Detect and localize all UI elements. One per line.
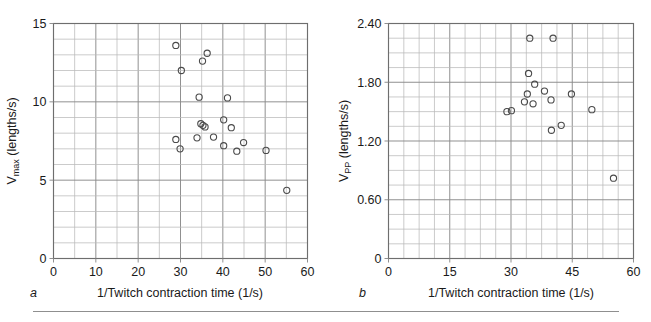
data-point	[548, 127, 554, 133]
data-point	[548, 97, 554, 103]
figure-container: 0102030405060 051015 1/Twitch contractio…	[0, 0, 651, 322]
y-tick-label: 15	[33, 17, 47, 31]
y-tick-label: 0	[375, 252, 382, 266]
x-tick-label: 60	[301, 265, 315, 279]
data-point	[530, 101, 536, 107]
panel-b-x-tick-labels: 015304560	[385, 259, 640, 279]
y-tick-label: 2.40	[357, 17, 381, 31]
data-point	[210, 134, 216, 140]
panel-b-y-tick-labels: 00.601.201.802.40	[357, 17, 388, 266]
panel-a-y-axis-title: Vmax (lengths/s)	[5, 97, 21, 184]
data-point	[541, 88, 547, 94]
panel-a-y-axis-tail: (lengths/s)	[5, 97, 19, 159]
panel-a: 0102030405060 051015 1/Twitch contractio…	[0, 0, 325, 322]
y-tick-label: 0.60	[357, 193, 381, 207]
panel-b-gridlines	[389, 24, 634, 259]
data-point	[568, 91, 574, 97]
data-point	[173, 136, 179, 142]
data-point	[228, 125, 234, 131]
data-point	[221, 143, 227, 149]
x-tick-label: 30	[504, 265, 518, 279]
x-tick-label: 30	[174, 265, 188, 279]
x-tick-label: 40	[216, 265, 230, 279]
bottom-divider-rule	[33, 311, 619, 312]
x-tick-label: 0	[50, 265, 57, 279]
data-point	[173, 42, 179, 48]
panel-a-x-tick-labels: 0102030405060	[50, 259, 314, 279]
panel-a-letter: a	[30, 286, 37, 300]
data-point	[224, 95, 230, 101]
panel-a-gridlines	[54, 24, 308, 259]
data-point	[524, 91, 530, 97]
data-point	[199, 58, 205, 64]
panel-a-y-tick-labels: 051015	[33, 17, 54, 266]
x-tick-label: 0	[385, 265, 392, 279]
data-point	[558, 122, 564, 128]
x-tick-label: 50	[258, 265, 272, 279]
panel-b-letter: b	[359, 286, 366, 300]
x-tick-label: 15	[443, 265, 457, 279]
y-tick-label: 5	[40, 174, 47, 188]
panel-b-y-axis-title: VPP (lengths/s)	[337, 100, 353, 182]
panel-b-data-points	[504, 35, 617, 181]
y-tick-label: 1.80	[357, 76, 381, 90]
x-tick-label: 10	[89, 265, 103, 279]
data-point	[284, 187, 290, 193]
data-point	[194, 135, 200, 141]
data-point	[204, 50, 210, 56]
panel-a-x-axis-title: 1/Twitch contraction time (1/s)	[97, 286, 263, 300]
panel-b-plot: 015304560 00.601.201.802.40 1/Twitch con…	[326, 0, 651, 322]
panel-a-plot: 0102030405060 051015 1/Twitch contractio…	[0, 0, 325, 322]
x-tick-label: 20	[131, 265, 145, 279]
panel-b: 015304560 00.601.201.802.40 1/Twitch con…	[326, 0, 651, 322]
y-tick-label: 1.20	[357, 135, 381, 149]
panel-a-data-points	[173, 42, 290, 193]
data-point	[263, 147, 269, 153]
data-point	[240, 139, 246, 145]
panel-a-y-axis-subscript: max	[11, 159, 21, 177]
x-tick-label: 60	[627, 265, 641, 279]
panel-b-x-axis-title: 1/Twitch contraction time (1/s)	[428, 286, 594, 300]
panel-b-y-axis-subscript: PP	[343, 162, 353, 174]
data-point	[610, 175, 616, 181]
y-tick-label: 10	[33, 95, 47, 109]
panel-b-y-axis-tail: (lengths/s)	[337, 100, 351, 162]
y-tick-label: 0	[40, 252, 47, 266]
x-tick-label: 45	[565, 265, 579, 279]
